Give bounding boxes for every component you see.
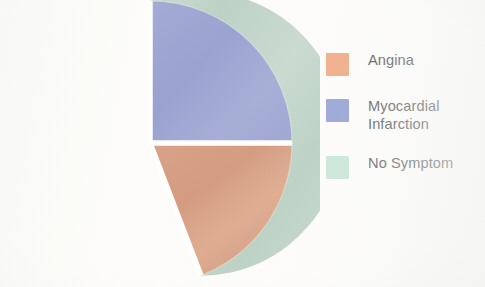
legend-item-no-symptom[interactable]: No Symptom — [326, 155, 485, 179]
pie-chart-figure: Angina Myocardial Infarction No Symptom — [0, 0, 485, 287]
chart-legend: Angina Myocardial Infarction No Symptom — [326, 52, 485, 179]
legend-label-no-symptom: No Symptom — [368, 155, 453, 173]
legend-color-swatch-no-symptom — [326, 156, 349, 179]
legend-label-myocardial-infarction: Myocardial Infarction — [368, 98, 440, 133]
legend-item-angina[interactable]: Angina — [326, 52, 485, 76]
pie-chart-svg — [0, 0, 320, 287]
legend-color-swatch-angina — [326, 53, 349, 76]
legend-color-swatch-myocardial-infarction — [326, 99, 349, 122]
legend-label-angina: Angina — [368, 52, 414, 70]
pie-chart-plot-area — [0, 0, 320, 287]
legend-item-myocardial-infarction[interactable]: Myocardial Infarction — [326, 98, 485, 133]
